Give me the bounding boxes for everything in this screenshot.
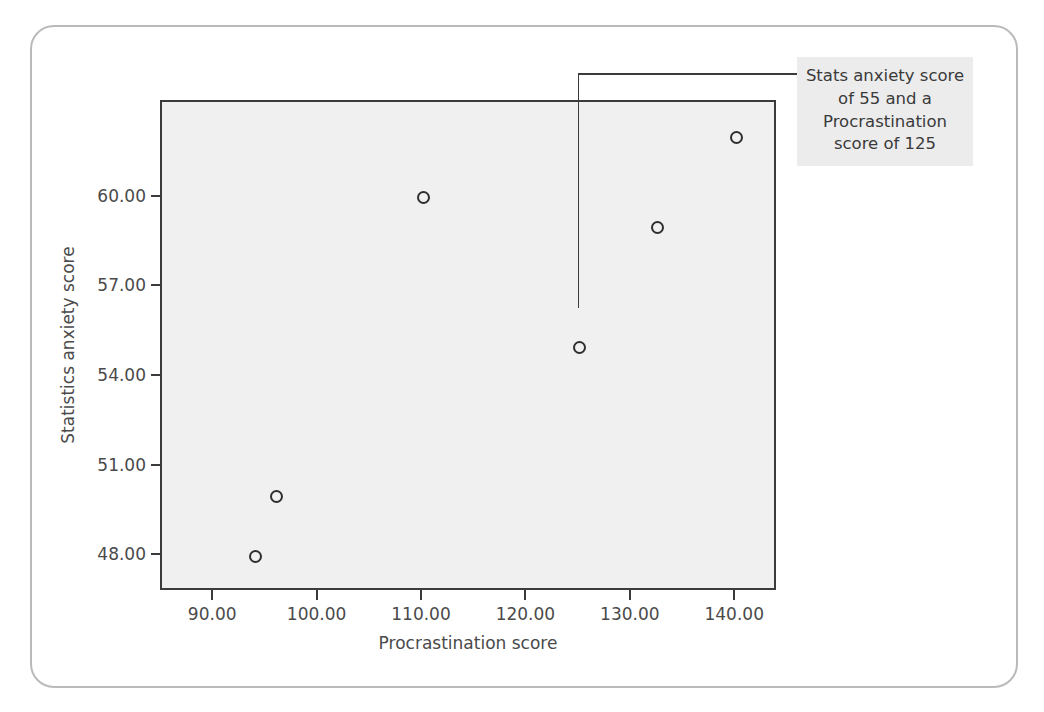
y-axis-tick-label: 60.00 — [36, 186, 146, 206]
x-axis-tick — [211, 590, 213, 600]
y-axis-tick — [151, 284, 160, 286]
data-point — [249, 550, 262, 563]
y-axis-tick — [151, 374, 160, 376]
annotation-line-3: Procrastination — [803, 111, 967, 134]
data-point — [270, 490, 283, 503]
annotation-leader-horizontal — [578, 73, 797, 75]
y-axis-tick-label: 57.00 — [36, 275, 146, 295]
data-point — [417, 191, 430, 204]
x-axis-tick-label: 130.00 — [580, 604, 680, 624]
x-axis-title: Procrastination score — [160, 633, 776, 653]
x-axis-tick — [629, 590, 631, 600]
x-axis-tick-label: 100.00 — [267, 604, 367, 624]
x-axis-tick — [316, 590, 318, 600]
y-axis-tick — [151, 195, 160, 197]
y-axis-tick — [151, 464, 160, 466]
data-point — [730, 131, 743, 144]
x-axis-tick-label: 120.00 — [475, 604, 575, 624]
y-axis-tick-label: 51.00 — [36, 455, 146, 475]
x-axis-tick-label: 140.00 — [684, 604, 784, 624]
annotation-callout: Stats anxiety score of 55 and a Procrast… — [797, 57, 973, 166]
annotation-line-2: of 55 and a — [803, 88, 967, 111]
x-axis-tick-label: 110.00 — [371, 604, 471, 624]
data-point — [573, 341, 586, 354]
annotation-leader-vertical — [578, 73, 580, 308]
x-axis-tick — [420, 590, 422, 600]
y-axis-tick-label: 48.00 — [36, 544, 146, 564]
y-axis-tick-label: 54.00 — [36, 365, 146, 385]
scatter-plot: Statistics anxiety score Procrastination… — [0, 0, 1044, 712]
y-axis-tick — [151, 553, 160, 555]
x-axis-tick-label: 90.00 — [162, 604, 262, 624]
annotation-line-1: Stats anxiety score — [803, 65, 967, 88]
annotation-line-4: score of 125 — [803, 133, 967, 156]
data-point — [651, 221, 664, 234]
x-axis-tick — [524, 590, 526, 600]
x-axis-tick — [733, 590, 735, 600]
plot-area — [160, 100, 776, 590]
